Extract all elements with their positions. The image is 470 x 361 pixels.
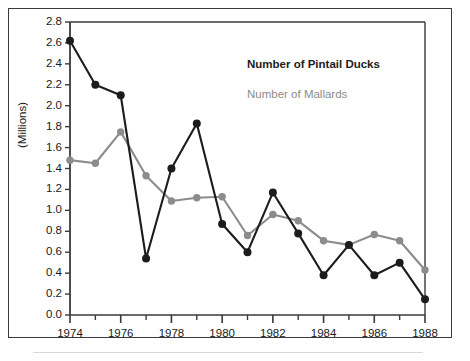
x-axis-tick-label: 1986 bbox=[349, 327, 399, 339]
data-point bbox=[320, 271, 328, 279]
data-point bbox=[396, 259, 404, 267]
x-axis-tick-label: 1988 bbox=[400, 327, 450, 339]
y-axis-tick-label: 0.6 bbox=[28, 245, 62, 257]
data-point bbox=[244, 248, 252, 256]
data-point bbox=[320, 237, 327, 244]
line-chart-plot bbox=[0, 0, 470, 361]
data-point bbox=[269, 211, 276, 218]
y-axis-tick-label: 2.6 bbox=[28, 36, 62, 48]
data-point bbox=[66, 156, 73, 163]
y-axis-tick-label: 1.8 bbox=[28, 120, 62, 132]
data-point bbox=[91, 81, 99, 89]
data-point bbox=[370, 271, 378, 279]
chart-figure: (Millions) Number of Pintail Ducks Numbe… bbox=[0, 0, 470, 361]
data-point bbox=[117, 128, 124, 135]
y-axis-tick-label: 0.8 bbox=[28, 224, 62, 236]
data-point bbox=[92, 160, 99, 167]
data-point bbox=[421, 295, 429, 303]
x-axis-tick-label: 1974 bbox=[45, 327, 95, 339]
data-point bbox=[218, 220, 226, 228]
data-point bbox=[294, 229, 302, 237]
y-axis-title: (Millions) bbox=[16, 132, 28, 148]
data-point bbox=[142, 172, 149, 179]
y-axis-tick-label: 1.4 bbox=[28, 162, 62, 174]
y-axis-tick-label: 0.4 bbox=[28, 266, 62, 278]
data-point bbox=[142, 254, 150, 262]
data-point bbox=[244, 232, 251, 239]
y-axis-tick-label: 2.4 bbox=[28, 57, 62, 69]
y-axis-tick-label: 1.2 bbox=[28, 182, 62, 194]
x-axis-tick-label: 1976 bbox=[96, 327, 146, 339]
x-axis-tick-label: 1984 bbox=[299, 327, 349, 339]
data-point bbox=[421, 266, 428, 273]
legend-item-pintail-ducks: Number of Pintail Ducks bbox=[247, 58, 380, 70]
y-axis-tick-label: 0.2 bbox=[28, 287, 62, 299]
data-point bbox=[168, 197, 175, 204]
x-axis-tick-label: 1980 bbox=[197, 327, 247, 339]
data-point bbox=[345, 241, 353, 249]
legend-item-mallards: Number of Mallards bbox=[247, 88, 347, 100]
x-axis-tick-label: 1978 bbox=[146, 327, 196, 339]
data-point bbox=[167, 165, 175, 173]
series-pintail-ducks bbox=[66, 37, 429, 303]
data-point bbox=[371, 231, 378, 238]
data-point bbox=[269, 189, 277, 197]
data-point bbox=[295, 217, 302, 224]
page-rule-artifact bbox=[33, 352, 423, 353]
data-point bbox=[396, 237, 403, 244]
y-axis-tick-label: 2.8 bbox=[28, 15, 62, 27]
y-axis-tick-label: 2.0 bbox=[28, 99, 62, 111]
data-point bbox=[66, 37, 74, 45]
y-axis-tick-label: 1.0 bbox=[28, 203, 62, 215]
data-point bbox=[218, 193, 225, 200]
data-point bbox=[193, 120, 201, 128]
data-point bbox=[193, 194, 200, 201]
data-point bbox=[117, 91, 125, 99]
x-axis-tick-label: 1982 bbox=[248, 327, 298, 339]
y-axis-tick-label: 1.6 bbox=[28, 141, 62, 153]
y-axis-tick-label: 0.0 bbox=[28, 308, 62, 320]
y-axis-tick-label: 2.2 bbox=[28, 78, 62, 90]
